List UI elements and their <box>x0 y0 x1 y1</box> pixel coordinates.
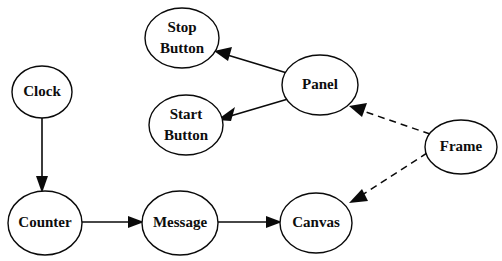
node-frame[interactable]: Frame <box>425 120 497 174</box>
diagram-canvas: Clock Stop Button Start Button Panel Fra… <box>0 0 502 261</box>
node-label-frame: Frame <box>440 138 483 154</box>
edge-group <box>36 47 430 228</box>
node-label-start-button-line2: Button <box>164 127 209 143</box>
node-canvas[interactable]: Canvas <box>280 193 352 253</box>
edge-clock-to-counter[interactable] <box>36 118 48 193</box>
node-label-message: Message <box>153 214 207 230</box>
edge-panel-to-stop-button[interactable] <box>214 47 287 73</box>
node-panel[interactable]: Panel <box>282 55 358 115</box>
edge-counter-to-message[interactable] <box>82 216 144 228</box>
node-label-canvas: Canvas <box>292 214 340 230</box>
edge-line-frame-canvas <box>359 153 427 197</box>
node-stop-button[interactable]: Stop Button <box>145 8 219 68</box>
node-label-panel: Panel <box>302 76 338 92</box>
node-start-button[interactable]: Start Button <box>149 95 223 155</box>
edge-line-frame-panel <box>360 110 430 134</box>
edge-line-panel-start <box>227 99 288 117</box>
node-label-counter: Counter <box>18 214 72 230</box>
edge-frame-to-panel[interactable] <box>349 103 430 134</box>
arrowhead-frame-canvas <box>349 189 368 203</box>
node-label-start-button-line1: Start <box>170 106 203 122</box>
node-label-stop-button-line1: Stop <box>167 19 196 35</box>
edge-line-panel-stop <box>224 54 287 73</box>
node-counter[interactable]: Counter <box>8 191 82 255</box>
collaboration-diagram: Clock Stop Button Start Button Panel Fra… <box>0 0 502 261</box>
edge-panel-to-start-button[interactable] <box>217 99 288 121</box>
node-label-clock: Clock <box>23 83 61 99</box>
node-label-stop-button-line2: Button <box>160 40 205 56</box>
edge-frame-to-canvas[interactable] <box>349 153 427 203</box>
node-clock[interactable]: Clock <box>12 66 72 118</box>
node-message[interactable]: Message <box>142 191 218 255</box>
node-shape-stop-button <box>145 8 219 68</box>
arrowhead-frame-panel <box>349 103 367 117</box>
node-shape-start-button <box>149 95 223 155</box>
edge-message-to-canvas[interactable] <box>218 216 282 228</box>
